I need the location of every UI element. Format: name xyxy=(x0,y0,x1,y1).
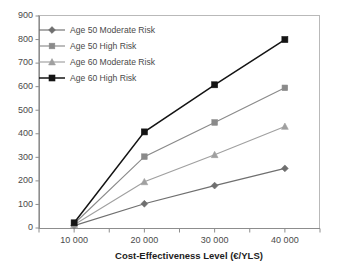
data-point-marker xyxy=(49,75,55,81)
y-axis-tick-labels: 0100200300400500600700800900 xyxy=(18,10,33,232)
y-tick-label: 300 xyxy=(18,152,33,162)
series-1 xyxy=(71,165,289,229)
y-tick-label: 0 xyxy=(28,222,33,232)
data-point-marker xyxy=(141,200,148,207)
chart-container: 0100200300400500600700800900 10 00020 00… xyxy=(0,0,340,269)
data-point-marker xyxy=(49,43,55,49)
legend-label: Age 50 High Risk xyxy=(70,41,137,51)
data-point-marker xyxy=(212,120,218,126)
legend-item-1[interactable]: Age 50 Moderate Risk xyxy=(39,25,156,35)
y-tick-label: 500 xyxy=(18,105,33,115)
data-point-marker xyxy=(142,154,148,160)
data-point-marker xyxy=(71,220,77,226)
x-axis-tick-labels: 10 00020 00030 00040 000 xyxy=(60,235,298,245)
series-2 xyxy=(71,85,287,227)
y-tick-label: 900 xyxy=(18,10,33,20)
data-point-marker xyxy=(49,27,56,34)
legend-item-2[interactable]: Age 50 High Risk xyxy=(39,41,137,51)
data-point-marker xyxy=(282,37,288,43)
legend-item-4[interactable]: Age 60 High Risk xyxy=(39,73,137,83)
x-tick-label: 30 000 xyxy=(201,235,229,245)
legend-label: Age 60 High Risk xyxy=(70,73,137,83)
data-point-marker xyxy=(212,82,218,88)
data-point-marker xyxy=(281,123,288,129)
line-chart: 0100200300400500600700800900 10 00020 00… xyxy=(0,0,340,269)
legend-label: Age 50 Moderate Risk xyxy=(70,25,156,35)
data-point-marker xyxy=(281,165,288,172)
chart-legend: Age 50 Moderate RiskAge 50 High RiskAge … xyxy=(39,25,156,83)
x-axis-ticks xyxy=(39,229,320,233)
x-tick-label: 10 000 xyxy=(60,235,88,245)
x-tick-label: 40 000 xyxy=(271,235,299,245)
legend-label: Age 60 Moderate Risk xyxy=(70,57,156,67)
x-tick-label: 20 000 xyxy=(131,235,159,245)
legend-item-3[interactable]: Age 60 Moderate Risk xyxy=(39,57,156,67)
data-point-marker xyxy=(282,85,288,91)
data-point-marker xyxy=(211,182,218,189)
y-tick-label: 700 xyxy=(18,57,33,67)
data-point-marker xyxy=(141,129,147,135)
y-tick-label: 600 xyxy=(18,81,33,91)
data-point-marker xyxy=(211,151,218,157)
data-point-marker xyxy=(141,178,148,184)
y-tick-label: 400 xyxy=(18,128,33,138)
y-tick-label: 800 xyxy=(18,34,33,44)
y-tick-label: 200 xyxy=(18,175,33,185)
y-tick-label: 100 xyxy=(18,199,33,209)
x-axis-title: Cost-Effectiveness Level (€/YLS) xyxy=(115,250,263,261)
